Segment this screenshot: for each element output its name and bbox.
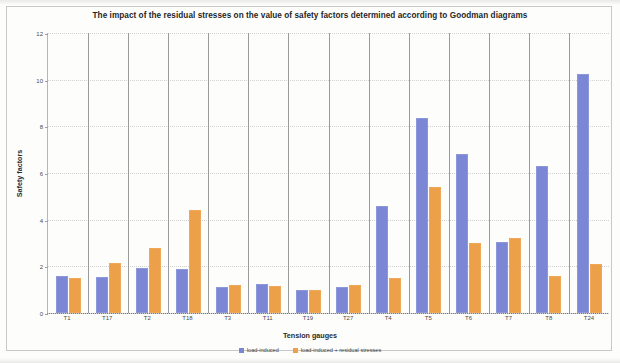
y-axis-tick-label: 2 [40, 264, 43, 270]
x-axis-tick-label: T17 [87, 315, 127, 321]
legend-label: load-induced + residual stresses [301, 347, 381, 353]
bar [536, 166, 548, 313]
bar-group [489, 33, 529, 313]
bar [429, 187, 441, 313]
bar [216, 287, 228, 313]
legend-label: load-induced [247, 347, 279, 353]
chart-legend: load-inducedload-induced + residual stre… [0, 347, 620, 353]
x-axis-tick-label: T8 [529, 315, 569, 321]
bar-group [128, 33, 168, 313]
x-axis-tick-label: T18 [167, 315, 207, 321]
chart-screenshot: The impact of the residual stresses on t… [0, 0, 620, 363]
page-edge-bottom [0, 358, 620, 363]
bar [229, 285, 241, 313]
bar [189, 210, 201, 313]
y-axis-title: Safety factors [14, 33, 26, 314]
bar [309, 290, 321, 313]
bar [256, 284, 268, 313]
bar [577, 74, 589, 313]
bar [69, 278, 81, 313]
x-axis-tick-label: T27 [328, 315, 368, 321]
bar [56, 276, 68, 313]
y-axis-tick-label: 8 [40, 124, 43, 130]
x-axis-tick-labels: T1T17T2T18T3T11T19T27T4T5T6T7T8T24 [47, 315, 609, 321]
bar [376, 206, 388, 313]
y-axis-tick-label: 6 [40, 171, 43, 177]
bar-group [208, 33, 248, 313]
bar-group [449, 33, 489, 313]
bar [389, 278, 401, 313]
bar [109, 263, 121, 313]
bar [269, 286, 281, 313]
y-axis-tick-label: 0 [40, 311, 43, 317]
bar-group [288, 33, 328, 313]
bar [469, 243, 481, 313]
bar-group [88, 33, 128, 313]
legend-item: load-induced + residual stresses [293, 347, 381, 353]
legend-swatch-icon [293, 348, 298, 353]
bar [136, 268, 148, 314]
bar [336, 287, 348, 313]
bar-group [48, 33, 88, 313]
x-axis-tick-label: T7 [489, 315, 529, 321]
bar-group [529, 33, 569, 313]
x-axis-tick-label: T5 [408, 315, 448, 321]
bar-group [369, 33, 409, 313]
bar [349, 285, 361, 313]
bar [509, 238, 521, 313]
bar [296, 290, 308, 313]
bar [416, 118, 428, 313]
x-axis-tick-label: T24 [569, 315, 609, 321]
y-axis-tick-label: 4 [40, 218, 43, 224]
bar [590, 264, 602, 313]
bar-group [569, 33, 609, 313]
chart-title: The impact of the residual stresses on t… [0, 11, 620, 20]
y-axis-tick-label: 10 [36, 78, 43, 84]
legend-swatch-icon [239, 348, 244, 353]
bar-group [409, 33, 449, 313]
bar-group [248, 33, 288, 313]
bar-groups [48, 33, 609, 313]
y-axis-tick-label: 12 [36, 31, 43, 37]
x-axis-tick-label: T2 [127, 315, 167, 321]
x-axis-tick-label: T6 [448, 315, 488, 321]
x-axis-tick-label: T1 [47, 315, 87, 321]
bar-group [329, 33, 369, 313]
bar [456, 154, 468, 313]
bar [549, 276, 561, 313]
y-axis-title-label: Safety factors [16, 150, 25, 198]
bar [496, 242, 508, 313]
x-axis-tick-label: T3 [208, 315, 248, 321]
x-axis-title: Tension gauges [0, 331, 620, 340]
bar [96, 277, 108, 313]
bar [149, 248, 161, 313]
x-axis-tick-label: T11 [248, 315, 288, 321]
bar [176, 269, 188, 313]
x-axis-tick-label: T4 [368, 315, 408, 321]
legend-item: load-induced [239, 347, 279, 353]
page-edge-top [0, 0, 620, 5]
bar-group [168, 33, 208, 313]
plot-area: 024681012 [47, 33, 609, 314]
x-axis-tick-label: T19 [288, 315, 328, 321]
y-gridline: 0 [48, 313, 609, 314]
